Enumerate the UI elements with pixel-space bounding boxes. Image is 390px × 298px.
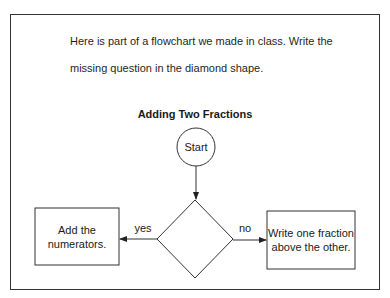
no-action-box: Write one fraction above the other. [267,211,355,269]
start-label: Start [184,141,207,153]
yes-action-line-2: numerators. [48,238,107,250]
no-action-line-2: above the other. [272,241,351,253]
start-node: Start [177,128,215,166]
yes-action-line-1: Add the [58,224,96,236]
yes-action-box: Add the numerators. [35,208,119,265]
no-label: no [239,222,251,234]
decision-diamond[interactable] [157,200,233,278]
yes-label: yes [134,222,152,234]
no-action-line-1: Write one fraction [268,227,354,239]
flowchart: Start yes no Add the numerators. Write o… [0,0,390,298]
